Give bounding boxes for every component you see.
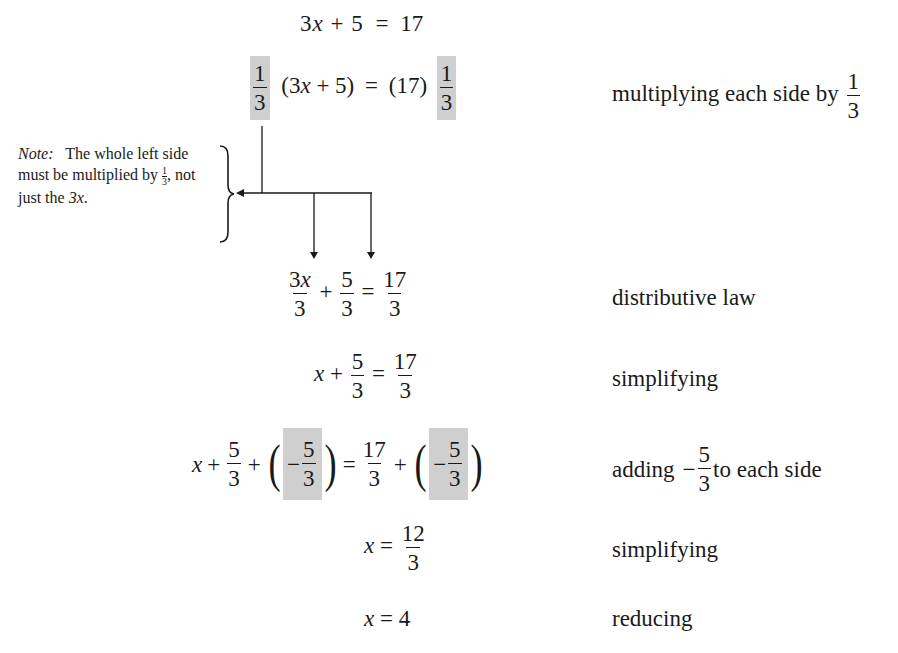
- note-prefix: Note:: [18, 145, 54, 162]
- minus-sign: −: [287, 453, 300, 476]
- fraction-denominator: 3: [293, 293, 307, 320]
- fraction-numerator: 17: [393, 350, 418, 375]
- left-paren: (: [268, 438, 280, 490]
- distribution-arrows-diagram: [0, 0, 898, 653]
- term-fraction: 5 3: [227, 438, 241, 490]
- variable-x: x: [314, 361, 324, 386]
- arrow-down-icon: [310, 252, 318, 259]
- fraction-numerator: 5: [698, 443, 712, 468]
- note-var: 3x: [69, 189, 84, 206]
- equals-sign: =: [372, 361, 385, 386]
- shaded-added-term-left: − 5 3: [283, 428, 321, 500]
- plus-sign: +: [330, 361, 343, 386]
- fraction-numerator: 12: [401, 522, 426, 547]
- plus-sign: +: [394, 453, 407, 476]
- step-6-label: simplifying: [612, 538, 718, 561]
- minus-sign: −: [433, 453, 446, 476]
- fraction-denominator: 3: [398, 375, 412, 402]
- right-paren: ): [470, 438, 482, 490]
- label-prefix: adding: [612, 458, 675, 481]
- variable-x: x: [364, 533, 374, 558]
- label-fraction: 5 3: [698, 443, 712, 495]
- fraction-numerator: 5: [340, 268, 354, 293]
- fraction-denominator: 3: [368, 463, 382, 490]
- fraction-numerator: 3x: [288, 268, 312, 293]
- arrow-left-icon: [236, 189, 244, 197]
- fraction-denominator: 3: [340, 293, 354, 320]
- arrow-down-icon: [367, 252, 375, 259]
- fraction-denominator: 3: [388, 293, 402, 320]
- fraction-numerator: 5: [448, 438, 462, 463]
- rhs-fraction: 17 3: [393, 350, 418, 402]
- fraction-numerator: 5: [302, 438, 316, 463]
- fraction-numerator: 17: [362, 438, 387, 463]
- step-3-label: distributive law: [612, 286, 756, 309]
- variable-x: x: [192, 453, 202, 476]
- step-7-rhs: 4: [399, 606, 411, 631]
- term-fraction: 5 3: [351, 350, 365, 402]
- variable-x: x: [364, 606, 374, 631]
- fraction-denominator: 3: [227, 463, 241, 490]
- equals-sign: =: [380, 606, 393, 631]
- left-paren: (: [414, 438, 426, 490]
- added-fraction: 5 3: [448, 438, 462, 490]
- equation-step-5: x + 5 3 + ( − 5 3 ) = 17 3 + ( − 5 3 ): [192, 428, 485, 500]
- plus-sign: +: [248, 453, 261, 476]
- step-7-label: reducing: [612, 607, 692, 630]
- fraction-denominator: 3: [302, 463, 316, 490]
- plus-sign: +: [319, 279, 332, 304]
- fraction-denominator: 3: [406, 547, 420, 574]
- equation-step-7: x = 4: [364, 607, 410, 630]
- equation-step-6: x = 12 3: [364, 522, 428, 574]
- step-5-label: adding − 5 3 to each side: [612, 443, 822, 495]
- fraction-denominator: 3: [698, 468, 712, 495]
- side-note: Note: The whole left side must be multip…: [18, 143, 218, 208]
- fraction-numerator: 5: [227, 438, 241, 463]
- rhs-fraction: 17 3: [362, 438, 387, 490]
- equals-sign: =: [361, 279, 374, 304]
- equals-sign: =: [343, 453, 356, 476]
- note-end: .: [84, 189, 88, 206]
- minus-sign: −: [683, 458, 696, 481]
- rhs-fraction: 17 3: [382, 268, 407, 320]
- fraction-numerator: 17: [382, 268, 407, 293]
- shaded-added-term-right: − 5 3: [429, 428, 467, 500]
- right-paren: ): [324, 438, 336, 490]
- curly-brace-icon: [220, 146, 234, 242]
- term-fraction: 5 3: [340, 268, 354, 320]
- fraction-denominator: 3: [448, 463, 462, 490]
- plus-sign: +: [207, 453, 220, 476]
- label-suffix: to each side: [713, 458, 822, 481]
- step-4-label: simplifying: [612, 367, 718, 390]
- equation-step-4: x + 5 3 = 17 3: [314, 350, 420, 402]
- equals-sign: =: [380, 533, 393, 558]
- fraction-numerator: 5: [351, 350, 365, 375]
- fraction-denominator: 3: [351, 375, 365, 402]
- added-fraction: 5 3: [302, 438, 316, 490]
- rhs-fraction: 12 3: [401, 522, 426, 574]
- equation-step-3: 3x 3 + 5 3 = 17 3: [286, 268, 409, 320]
- term-fraction: 3x 3: [288, 268, 312, 320]
